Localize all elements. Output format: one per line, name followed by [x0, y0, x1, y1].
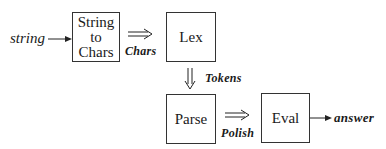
box-label: Lex	[179, 30, 202, 45]
output-label: answer	[334, 110, 374, 126]
lex-box: Lex	[166, 12, 216, 62]
string-to-chars-box: String to Chars	[72, 12, 120, 62]
box-line: Chars	[78, 45, 115, 60]
input-label: string	[10, 30, 45, 47]
arrow-right-icon	[48, 33, 72, 45]
parse-box: Parse	[166, 94, 216, 144]
edge-label-tokens: Tokens	[205, 71, 242, 86]
edge-label-chars: Chars	[125, 44, 157, 59]
edge-label-polish: Polish	[221, 126, 254, 141]
double-arrow-down-icon	[184, 68, 196, 90]
double-arrow-right-icon	[225, 109, 251, 121]
box-line: String	[78, 15, 115, 30]
box-line: to	[78, 30, 115, 45]
box-label: Parse	[175, 112, 208, 127]
arrow-right-icon	[310, 112, 332, 124]
eval-box: Eval	[261, 93, 310, 143]
double-arrow-right-icon	[128, 28, 154, 40]
box-label: Eval	[272, 111, 300, 126]
